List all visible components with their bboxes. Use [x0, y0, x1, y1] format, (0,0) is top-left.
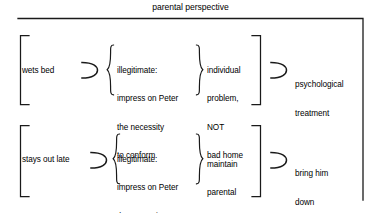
row-2-superset-icon-1: [91, 153, 107, 169]
row-1-left-curly-brace: [107, 45, 113, 95]
row-1-ascription-line-3: NOT: [207, 123, 243, 133]
row-2-stimulus-text: stays out late: [22, 155, 70, 165]
row-2-superset-icon-2: [271, 153, 287, 169]
row-2-outcome-text: bring him down: [295, 150, 328, 213]
row-1-outcome-line-1: psychological: [295, 80, 344, 90]
row-2-right-square-bracket: [252, 126, 261, 197]
row-2-belief-text: illegitimate: impress on Peter the neces…: [117, 136, 178, 214]
row-2-belief-line-3: the necessity: [117, 212, 178, 214]
row-2-ascription-line-1: maintain: [207, 160, 238, 170]
row-1-belief-line-2: impress on Peter: [117, 94, 178, 104]
row-1-ascription-line-2: problem,: [207, 94, 243, 104]
row-1-superset-icon-1: [82, 63, 98, 79]
row-1-ascription-line-1: individual: [207, 66, 243, 76]
row-1-outcome-text: psychological treatment: [295, 61, 344, 137]
row-2-belief-line-1: illegitimate:: [117, 155, 178, 165]
row-1-outcome-line-2: treatment: [295, 109, 344, 119]
row-1-belief-line-3: the necessity: [117, 123, 178, 133]
row-1-belief-line-1: illegitimate:: [117, 66, 178, 76]
row-2-right-curly-brace: [197, 134, 203, 184]
row-2-outcome-line-1: bring him: [295, 169, 328, 179]
row-2-ascription-text: maintain parental status: [207, 141, 238, 214]
row-1-right-square-bracket: [252, 36, 261, 105]
row-2-ascription-line-2: parental: [207, 188, 238, 198]
page-title: parental perspective: [0, 3, 381, 13]
row-2-outcome-line-2: down: [295, 198, 328, 208]
parental-perspective-diagram: parental perspective: [0, 0, 381, 213]
row-2-belief-line-2: impress on Peter: [117, 183, 178, 193]
row-1-stimulus-text: wets bed: [22, 66, 54, 76]
row-1-right-curly-brace: [197, 45, 203, 95]
row-1-superset-icon-2: [271, 63, 287, 79]
